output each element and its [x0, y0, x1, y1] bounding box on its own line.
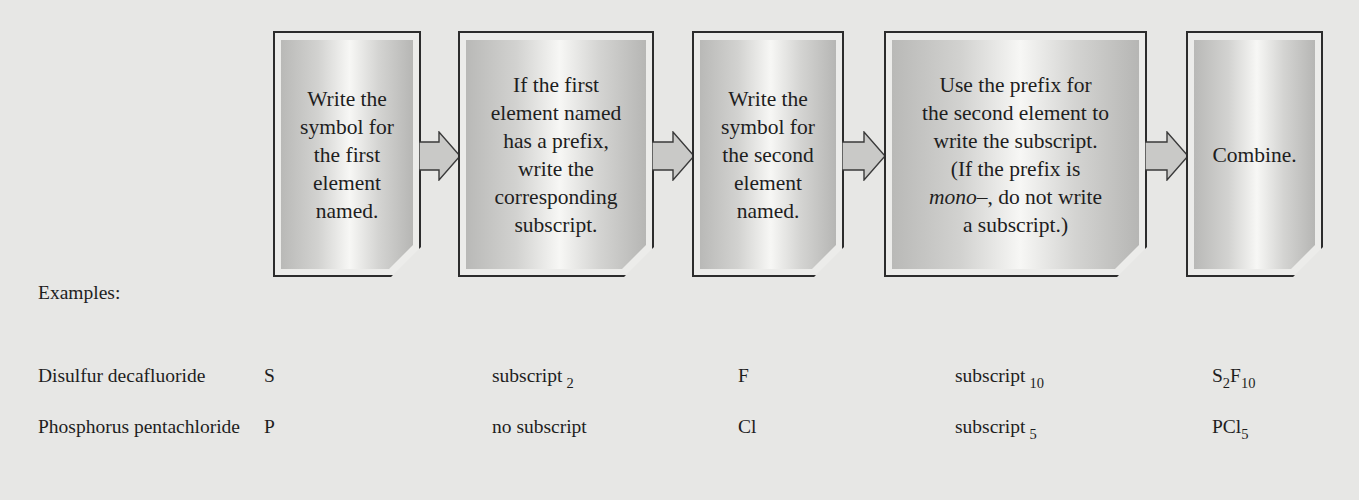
example-row: Phosphorus pentachloride P no subscript …	[0, 416, 1359, 446]
step-2-text: If the first element named has a prefix,…	[491, 71, 622, 239]
second-subscript: subscript5	[955, 416, 1037, 443]
second-symbol: F	[738, 365, 749, 387]
second-symbol: Cl	[738, 416, 756, 438]
formula-symbol: F	[1230, 365, 1241, 386]
arrow-right-icon	[842, 131, 886, 181]
arrow-right-icon	[419, 131, 461, 181]
step-box-1: Write the symbol for the first element n…	[273, 31, 421, 277]
first-subscript: no subscript	[492, 416, 587, 438]
formula-subscript: 5	[1241, 426, 1248, 442]
second-subscript-text: subscript	[955, 365, 1025, 386]
step-5-text: Combine.	[1212, 141, 1296, 169]
second-subscript-text: subscript	[955, 416, 1025, 437]
step-4-text-part-2: –, do not write a subscript.)	[963, 185, 1102, 237]
first-symbol: P	[264, 416, 275, 438]
compound-name: Disulfur decafluoride	[38, 365, 205, 387]
formula-subscript: 10	[1241, 375, 1256, 391]
step-box-2: If the first element named has a prefix,…	[458, 31, 654, 277]
formula-symbol: PCl	[1212, 416, 1241, 437]
step-box-4: Use the prefix for the second element to…	[884, 31, 1147, 277]
step-box-3: Write the symbol for the second element …	[692, 31, 844, 277]
step-3-text: Write the symbol for the second element …	[721, 85, 815, 225]
first-symbol: S	[264, 365, 275, 387]
step-4-text: Use the prefix for the second element to…	[922, 71, 1109, 239]
formula: PCl5	[1212, 416, 1249, 443]
step-4-italic-prefix: mono	[929, 185, 977, 209]
second-subscript: subscript10	[955, 365, 1044, 392]
compound-name: Phosphorus pentachloride	[38, 416, 240, 438]
step-1-text: Write the symbol for the first element n…	[300, 85, 394, 225]
arrow-right-icon	[652, 131, 695, 181]
first-subscript-text: no subscript	[492, 416, 587, 437]
first-subscript: subscript2	[492, 365, 574, 392]
second-subscript-value: 10	[1029, 375, 1044, 391]
first-subscript-value: 2	[566, 375, 573, 391]
flowchart-figure: Write the symbol for the first element n…	[0, 0, 1359, 500]
example-row: Disulfur decafluoride S subscript2 F sub…	[0, 365, 1359, 395]
step-4-text-part-1: Use the prefix for the second element to…	[922, 73, 1109, 181]
formula: S2F10	[1212, 365, 1255, 392]
arrow-right-icon	[1145, 131, 1189, 181]
formula-symbol: S	[1212, 365, 1223, 386]
step-box-5: Combine.	[1186, 31, 1323, 277]
examples-label: Examples:	[38, 282, 120, 304]
first-subscript-text: subscript	[492, 365, 562, 386]
second-subscript-value: 5	[1029, 426, 1036, 442]
